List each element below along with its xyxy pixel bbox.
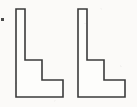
left-edge-dot-icon xyxy=(1,18,4,21)
figure-canvas xyxy=(0,0,137,107)
figure-svg xyxy=(0,0,137,107)
l-shape-left xyxy=(16,9,63,97)
l-shape-right xyxy=(78,9,125,97)
